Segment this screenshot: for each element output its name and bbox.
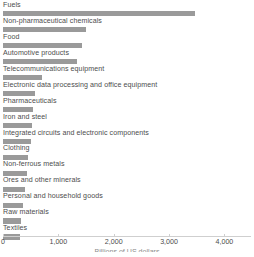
x-axis-tick-mark <box>3 234 4 237</box>
bar-group: Raw materials <box>0 209 254 225</box>
bar-track <box>3 59 251 64</box>
bar-track <box>3 27 251 32</box>
bar-group: Automotive products <box>0 50 254 66</box>
bar[interactable] <box>3 75 42 80</box>
x-axis-tick-label: 1,000 <box>49 238 67 247</box>
bar[interactable] <box>3 59 77 64</box>
bar-group: Telecommunications equipment <box>0 66 254 82</box>
x-axis-tick-label: 0 <box>1 238 5 247</box>
bar-category-label: Automotive products <box>3 49 69 58</box>
bar[interactable] <box>3 123 32 128</box>
bar-category-label: Iron and steel <box>3 113 47 122</box>
bar[interactable] <box>3 187 25 192</box>
bar-category-label: Pharmaceuticals <box>3 97 57 106</box>
bar[interactable] <box>3 43 82 48</box>
bar-track <box>3 107 251 112</box>
x-axis-tick-label: 4,000 <box>216 238 234 247</box>
bar[interactable] <box>3 139 31 144</box>
bar-category-label: Food <box>3 33 19 42</box>
bar-track <box>3 43 251 48</box>
bar-track <box>3 11 251 16</box>
x-axis-title: Billions of US dollars <box>0 248 254 252</box>
bar-group: Non-ferrous metals <box>0 161 254 177</box>
bar-track <box>3 171 251 176</box>
bar-chart: FuelsNon-pharmaceutical chemicalsFoodAut… <box>0 0 254 257</box>
x-axis-tick-mark <box>114 234 115 237</box>
bar-track <box>3 218 251 223</box>
bar[interactable] <box>3 218 21 223</box>
bar-category-label: Fuels <box>3 1 21 10</box>
bar[interactable] <box>3 27 86 32</box>
x-axis-tick-mark <box>58 234 59 237</box>
x-axis-tick-mark <box>224 234 225 237</box>
bar-track <box>3 203 251 208</box>
bar[interactable] <box>3 203 23 208</box>
bar[interactable] <box>3 11 195 16</box>
bar-category-label: Raw materials <box>3 208 49 217</box>
bar-group: Electronic data processing and office eq… <box>0 82 254 98</box>
bar-track <box>3 75 251 80</box>
bar-group: Clothing <box>0 145 254 161</box>
bar[interactable] <box>3 171 27 176</box>
bar-category-label: Textiles <box>3 224 27 233</box>
bar-category-label: Non-ferrous metals <box>3 160 65 169</box>
bar-group: Non-pharmaceutical chemicals <box>0 18 254 34</box>
bar-track <box>3 155 251 160</box>
bar-track <box>3 187 251 192</box>
bar-group: Iron and steel <box>0 114 254 130</box>
bar-track <box>3 139 251 144</box>
x-axis-line <box>3 236 251 237</box>
plot-area: FuelsNon-pharmaceutical chemicalsFoodAut… <box>0 2 254 236</box>
bar-category-label: Integrated circuits and electronic compo… <box>3 129 149 138</box>
bar-group: Pharmaceuticals <box>0 98 254 114</box>
bar[interactable] <box>3 91 35 96</box>
bar-group: Integrated circuits and electronic compo… <box>0 130 254 146</box>
bar-group: Food <box>0 34 254 50</box>
x-axis-tick-mark <box>169 234 170 237</box>
bar-track <box>3 91 251 96</box>
x-axis-tick-label: 3,000 <box>160 238 178 247</box>
bar-category-label: Telecommunications equipment <box>3 65 104 74</box>
x-axis-tick-label: 2,000 <box>105 238 123 247</box>
bar-category-label: Clothing <box>3 144 30 153</box>
bar-track <box>3 123 251 128</box>
bar-group: Ores and other minerals <box>0 177 254 193</box>
bar-category-label: Personal and household goods <box>3 192 103 201</box>
bar-category-label: Non-pharmaceutical chemicals <box>3 17 102 26</box>
bar-category-label: Ores and other minerals <box>3 176 81 185</box>
bar[interactable] <box>3 107 33 112</box>
bar-group: Fuels <box>0 2 254 18</box>
bar-group: Personal and household goods <box>0 193 254 209</box>
bar-category-label: Electronic data processing and office eq… <box>3 81 157 90</box>
bar[interactable] <box>3 155 28 160</box>
x-axis: Billions of US dollars 01,0002,0003,0004… <box>0 236 254 257</box>
